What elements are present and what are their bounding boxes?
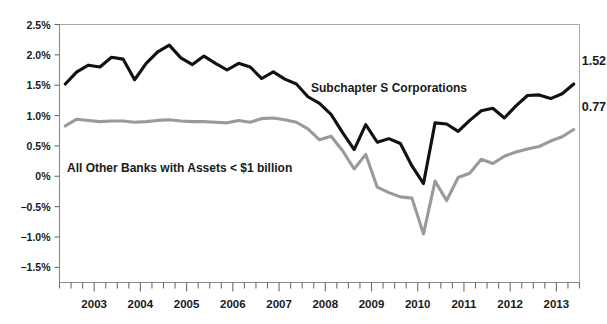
y-tick-label: 1.5% <box>27 79 52 91</box>
x-tick-label: 2013 <box>544 298 570 310</box>
series-layer <box>65 45 573 234</box>
y-tick-label: 0% <box>35 170 51 182</box>
y-tick-label: −0.5% <box>20 201 51 213</box>
annotation-layer: Subchapter S CorporationsAll Other Banks… <box>67 81 467 175</box>
other-banks-label: All Other Banks with Assets < $1 billion <box>67 161 292 175</box>
end-value-label-1: 0.77 <box>582 100 606 114</box>
x-tick-label: 2003 <box>81 298 107 310</box>
subchapter-s-label: Subchapter S Corporations <box>311 81 467 95</box>
line-chart: 2.5%2.0%1.5%1.0%0.5%0%−0.5%−1.0%−1.5% 20… <box>0 0 607 324</box>
x-tick-label: 2004 <box>128 298 154 310</box>
x-tick-label: 2010 <box>405 298 431 310</box>
y-tick-label: 1.0% <box>27 110 52 122</box>
plot-frame <box>60 25 580 283</box>
y-axis-tick-labels: 2.5%2.0%1.5%1.0%0.5%0%−0.5%−1.0%−1.5% <box>20 19 51 274</box>
series-line-1 <box>65 118 573 234</box>
x-tick-label: 2006 <box>220 298 246 310</box>
x-tick-label: 2008 <box>312 298 338 310</box>
end-value-label-0: 1.52 <box>582 54 606 68</box>
end-value-labels: 1.520.77 <box>582 54 606 114</box>
x-tick-label: 2011 <box>451 298 477 310</box>
chart-container: 2.5%2.0%1.5%1.0%0.5%0%−0.5%−1.0%−1.5% 20… <box>0 0 607 324</box>
x-tick-label: 2007 <box>266 298 292 310</box>
y-tick-label: 2.5% <box>27 19 52 31</box>
y-axis-ticks <box>55 25 60 268</box>
x-tick-label: 2005 <box>174 298 200 310</box>
y-tick-label: −1.5% <box>20 261 51 273</box>
y-tick-label: 0.5% <box>27 140 52 152</box>
x-tick-label: 2009 <box>359 298 385 310</box>
x-axis-tick-labels: 2003200420052006200720082009201020112012… <box>81 298 569 310</box>
x-tick-label: 2012 <box>497 298 523 310</box>
x-axis-ticks <box>60 283 580 292</box>
y-tick-label: −1.0% <box>20 231 51 243</box>
y-tick-label: 2.0% <box>27 49 52 61</box>
